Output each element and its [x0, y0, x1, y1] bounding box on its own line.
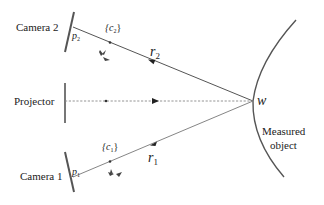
measured-object-label-line1: Measured — [262, 125, 306, 137]
r2-label: r2 — [150, 44, 160, 61]
p1-label: p1 — [71, 166, 80, 178]
measured-object-label-line2: object — [270, 139, 297, 151]
projector-label: Projector — [14, 95, 55, 107]
camera2-label: Camera 2 — [16, 21, 58, 33]
p2-label: p2 — [71, 30, 80, 42]
stereo-camera-projector-diagram: Camera 2 Projector Camera 1 p2 p1 {c2} {… — [0, 0, 324, 205]
camera1-label: Camera 1 — [20, 170, 62, 182]
projector-ray-arrow-icon — [152, 98, 159, 104]
r1-label: r1 — [148, 150, 158, 167]
camera2-axis-triad-icon — [99, 50, 110, 61]
c2-label: {c2} — [105, 22, 121, 34]
ray-r2 — [73, 27, 253, 101]
w-label: w — [257, 93, 267, 108]
camera2-center-dot — [109, 41, 112, 44]
camera1-axis-triad-icon — [108, 169, 122, 177]
ray-r2-arrow-icon — [148, 60, 156, 65]
projector-center-dot — [105, 100, 108, 103]
ray-r1 — [73, 101, 253, 177]
camera1-center-dot — [109, 160, 112, 163]
c1-label: {c1} — [102, 141, 118, 153]
